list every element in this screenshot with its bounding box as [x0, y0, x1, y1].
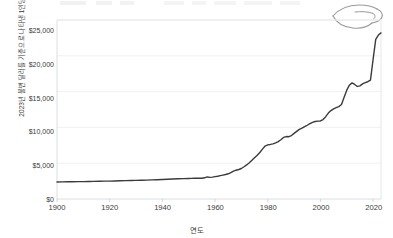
- chart-figure: 2023년 불변 달러를 기준으로 나타낸 1인당 지출 $0 $5,000 $…: [0, 0, 393, 238]
- data-line-1인당 지출: [57, 33, 381, 182]
- plot-area: [0, 0, 393, 238]
